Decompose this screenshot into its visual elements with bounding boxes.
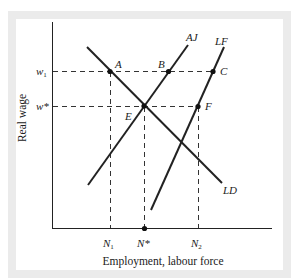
point-nstar — [142, 226, 147, 231]
point-f-label: F — [204, 100, 212, 112]
y-axis-title: Real wage — [16, 94, 29, 142]
x-axis-title: Employment, labour force — [102, 255, 223, 268]
point-a-label: A — [114, 58, 122, 70]
point-b-label: B — [158, 58, 165, 70]
point-f — [195, 104, 200, 109]
point-c-label: C — [220, 65, 228, 77]
nstar-tick-label: N* — [136, 237, 150, 249]
point-c — [210, 69, 215, 74]
point-b — [166, 69, 171, 74]
point-e-label: E — [124, 110, 132, 122]
aj-label: AJ — [185, 31, 199, 43]
n2-tick-label: N2 — [190, 237, 202, 251]
aj-curve — [88, 45, 188, 185]
points — [107, 69, 215, 231]
lf-label: LF — [214, 35, 228, 47]
n1-tick-label: N1 — [102, 237, 114, 251]
ld-curve — [87, 47, 222, 183]
ld-label: LD — [222, 184, 237, 196]
wstar-tick-label: w* — [36, 100, 49, 112]
point-a — [107, 69, 112, 74]
labour-market-diagram: AJ LF LD A B C E F w1 w* N1 N* N2 Employ… — [0, 0, 296, 278]
w1-tick-label: w1 — [36, 65, 47, 79]
point-e — [141, 103, 146, 108]
